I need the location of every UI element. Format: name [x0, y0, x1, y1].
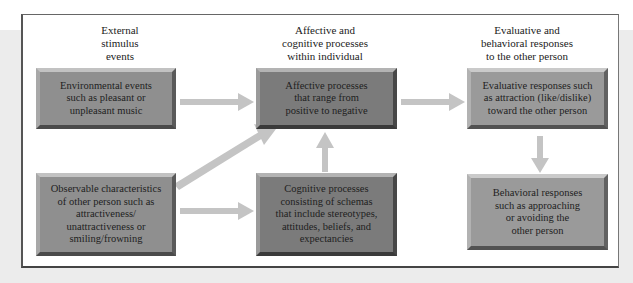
box-line: consisting of schemas [276, 196, 378, 209]
box-line: positive to negative [285, 105, 367, 118]
box-line: toward the other person [482, 105, 592, 118]
box-line: Affective processes [285, 80, 367, 93]
box-affective-processes: Affective processes that range from posi… [256, 68, 397, 129]
box-line: other person [493, 225, 583, 238]
box-cognitive-processes: Cognitive processes consisting of schema… [256, 173, 397, 256]
arrow-right-icon [180, 202, 254, 220]
box-line: such as pleasant or [60, 92, 152, 105]
box-line: unattractiveness or [51, 221, 162, 234]
arrow-up-icon [316, 132, 334, 172]
box-line: Environmental events [60, 80, 152, 93]
box-line: unpleasant music [60, 105, 152, 118]
box-evaluative-responses: Evaluative responses such as attraction … [467, 68, 608, 129]
box-observable-characteristics: Observable characteristics of other pers… [36, 173, 176, 256]
arrow-right-icon [180, 93, 254, 111]
box-environmental-events: Environmental events such as pleasant or… [36, 68, 176, 129]
box-line: Evaluative responses such [482, 80, 592, 93]
box-line: such as approaching [493, 200, 583, 213]
box-line: as attraction (like/dislike) [482, 92, 592, 105]
box-line: of other person such as [51, 196, 162, 209]
box-line: that range from [285, 92, 367, 105]
arrow-right-icon [401, 93, 465, 111]
box-line: expectancies [276, 233, 378, 246]
box-line: smiling/frowning [51, 233, 162, 246]
box-line: Cognitive processes [276, 183, 378, 196]
box-line: Behavioral responses [493, 187, 583, 200]
box-line: that include stereotypes, [276, 208, 378, 221]
box-line: Observable characteristics [51, 183, 162, 196]
box-line: attractiveness/ [51, 208, 162, 221]
box-line: or avoiding the [493, 212, 583, 225]
arrow-down-icon [531, 136, 549, 173]
box-line: attitudes, beliefs, and [276, 221, 378, 234]
box-behavioral-responses: Behavioral responses such as approaching… [467, 174, 608, 250]
